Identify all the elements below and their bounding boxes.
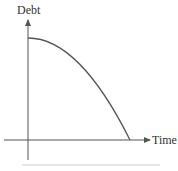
- debt-curve: [28, 38, 130, 140]
- debt-time-chart: Debt Time: [0, 0, 178, 171]
- x-axis-label: Time: [152, 133, 177, 147]
- y-axis-label: Debt: [17, 3, 41, 17]
